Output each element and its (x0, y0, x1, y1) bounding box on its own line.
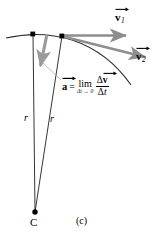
fraction-denominator: Δt (97, 87, 108, 97)
position-point-2 (59, 34, 64, 39)
center-label: C (30, 217, 37, 228)
radius-line-left (33, 34, 35, 212)
limit-condition: Δt → 0 (77, 89, 93, 95)
limit-block: lim Δt → 0 (77, 79, 93, 95)
velocity-1-symbol: v (115, 11, 121, 23)
panel-label: (c) (76, 216, 87, 226)
acceleration-arrow (41, 34, 48, 66)
physics-figure: v 1 v 2 a = lim Δt → 0 (0, 0, 164, 238)
radius-label-right: r (50, 114, 54, 124)
radius-line-right (35, 36, 62, 212)
center-point (32, 209, 37, 214)
position-point-1 (30, 32, 35, 37)
velocity-2-symbol: v (136, 50, 142, 62)
equals-sign: = (69, 81, 75, 92)
acceleration-equation: a = lim Δt → 0 Δ v Δt (62, 76, 109, 97)
acceleration-letter: a (62, 81, 67, 92)
limit-operator: lim (78, 79, 91, 89)
acceleration-symbol: a (62, 81, 67, 92)
velocity-1-subscript: 1 (121, 16, 125, 25)
denominator-symbol: t (104, 87, 107, 97)
vector-arrow-icon (103, 71, 117, 75)
velocity-2-arrow (61, 36, 145, 57)
radius-label-left: r (24, 113, 28, 123)
velocity-2-label: v 2 (136, 51, 146, 64)
fraction-numerator: Δ v (96, 76, 109, 86)
equation-leader-line (42, 62, 61, 80)
vector-arrow-icon (115, 7, 129, 11)
velocity-1-label: v 1 (115, 12, 125, 25)
vector-arrow-icon (62, 76, 76, 80)
velocity-2-subscript: 2 (142, 55, 146, 64)
numerator-symbol: v (103, 75, 108, 85)
vector-arrow-icon (136, 46, 150, 50)
delta-v-over-delta-t: Δ v Δt (96, 76, 109, 97)
